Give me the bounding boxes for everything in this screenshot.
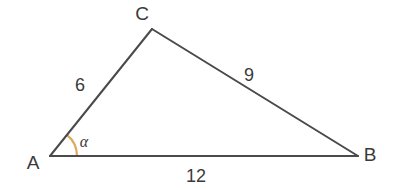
figure-canvas: A B C 6 9 12 α (0, 0, 397, 190)
vertex-label-c: C (135, 3, 149, 24)
side-length-label-ac: 6 (75, 75, 85, 95)
vertex-label-a: A (27, 152, 40, 173)
side-length-label-ab: 12 (186, 166, 206, 186)
side-cb-line (152, 29, 358, 156)
side-length-label-cb: 9 (244, 65, 254, 85)
vertex-label-b: B (364, 144, 377, 165)
triangle-figure: A B C 6 9 12 α (0, 0, 397, 190)
angle-alpha-arc (67, 135, 77, 156)
angle-alpha-label: α (80, 133, 89, 150)
side-ac-line (50, 29, 152, 156)
